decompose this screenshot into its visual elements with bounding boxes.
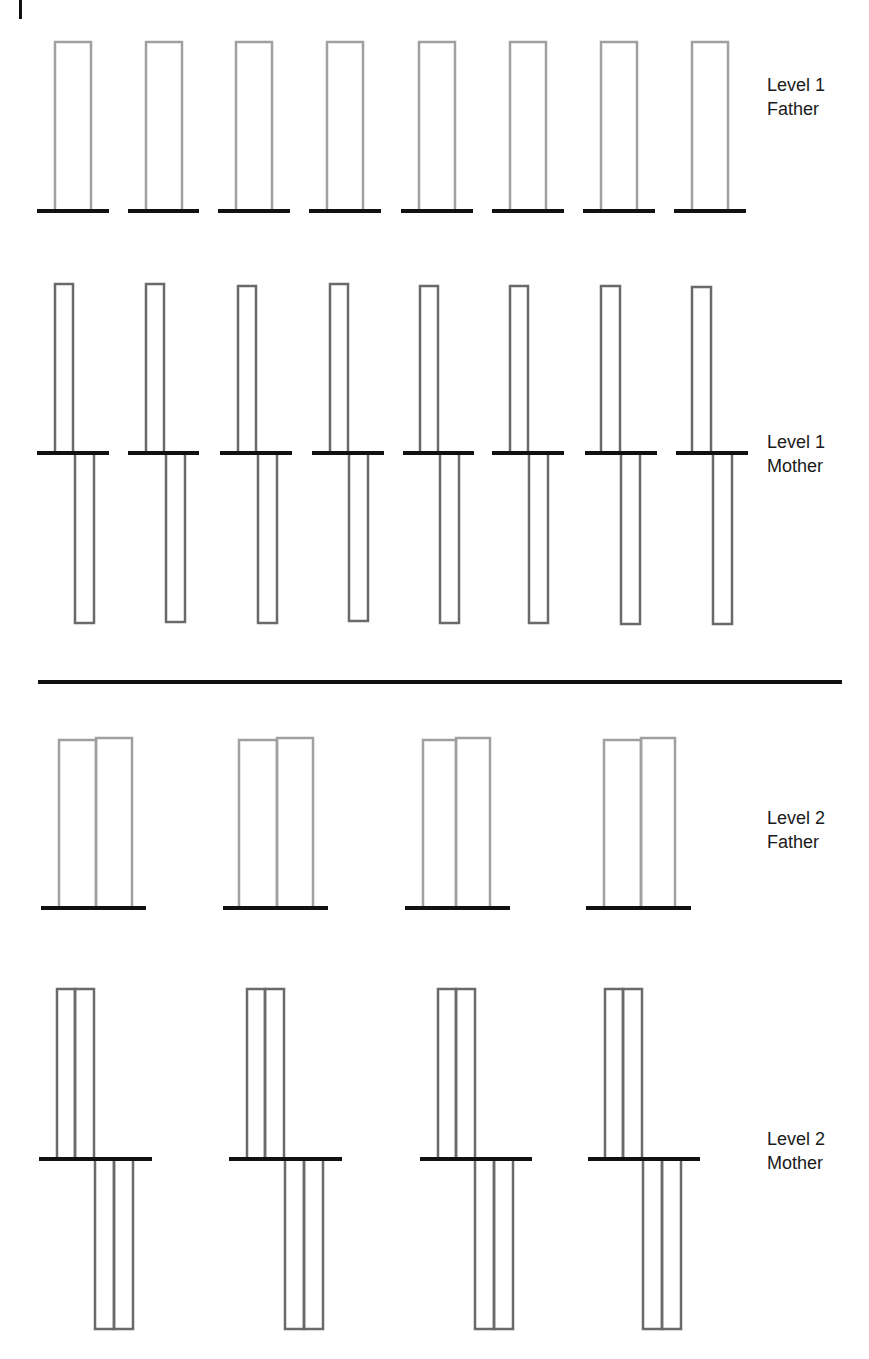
bar-outline <box>456 989 475 1159</box>
level1-father-unit <box>309 42 381 211</box>
bar-outline <box>75 453 94 623</box>
bar-outline <box>713 453 732 624</box>
bar-outline <box>423 740 456 908</box>
bar-outline <box>146 42 182 211</box>
level2-father-unit <box>223 738 328 908</box>
bar-outline <box>475 1159 494 1329</box>
bar-outline <box>456 738 490 908</box>
level1-mother-unit <box>37 284 109 623</box>
bar-outline <box>419 42 455 211</box>
label-level1-father-line1: Level 1 <box>767 73 825 97</box>
bar-outline <box>605 989 623 1159</box>
level1-father-unit <box>583 42 655 211</box>
bar-outline <box>277 738 313 908</box>
bar-outline <box>510 286 528 453</box>
bar-outline <box>238 286 256 453</box>
level1-mother-unit <box>128 284 199 622</box>
level2-mother-unit <box>229 989 342 1329</box>
bar-outline <box>57 989 75 1159</box>
bar-diagram <box>0 0 869 1359</box>
bar-outline <box>55 42 91 211</box>
bar-outline <box>146 284 164 453</box>
bar-outline <box>420 286 438 453</box>
level1-father-unit <box>674 42 746 211</box>
label-level2-father: Level 2 Father <box>767 806 825 854</box>
level1-father-unit <box>128 42 199 211</box>
level1-father-unit <box>37 42 109 211</box>
corner-tick-mark <box>19 0 22 19</box>
level1-father-unit <box>218 42 290 211</box>
bar-outline <box>529 453 548 623</box>
bar-outline <box>265 989 284 1159</box>
bar-outline <box>623 989 642 1159</box>
level1-father-unit <box>401 42 473 211</box>
bar-outline <box>643 1159 662 1329</box>
bar-outline <box>494 1159 513 1329</box>
label-level2-father-line2: Father <box>767 830 825 854</box>
bar-outline <box>75 989 94 1159</box>
bar-outline <box>258 453 277 623</box>
label-level1-father: Level 1 Father <box>767 73 825 121</box>
level1-mother-unit <box>492 286 564 623</box>
bar-outline <box>604 740 641 908</box>
bar-outline <box>236 42 272 211</box>
row-level1-father <box>37 42 746 211</box>
row-level2-father <box>41 738 691 908</box>
bar-outline <box>692 42 728 211</box>
bar-outline <box>349 453 368 621</box>
bar-outline <box>662 1159 681 1329</box>
label-level1-father-line2: Father <box>767 97 825 121</box>
bar-outline <box>692 287 711 453</box>
bar-outline <box>247 989 265 1159</box>
bar-outline <box>55 284 73 453</box>
bar-outline <box>330 284 348 453</box>
bar-outline <box>621 453 640 624</box>
level1-mother-unit <box>403 286 474 623</box>
level1-father-unit <box>492 42 564 211</box>
bar-outline <box>239 740 277 908</box>
bar-outline <box>601 286 620 453</box>
bar-outline <box>96 738 132 908</box>
bar-outline <box>641 738 675 908</box>
label-level2-mother-line1: Level 2 <box>767 1127 825 1151</box>
bar-outline <box>95 1159 114 1329</box>
diagram-canvas: Level 1 Father Level 1 Mother Level 2 Fa… <box>0 0 869 1359</box>
bar-outline <box>440 453 459 623</box>
label-level1-mother-line2: Mother <box>767 454 825 478</box>
label-level2-mother-line2: Mother <box>767 1151 825 1175</box>
level1-mother-unit <box>312 284 384 621</box>
bar-outline <box>166 453 185 622</box>
level1-mother-unit <box>220 286 292 623</box>
level2-mother-unit <box>588 989 700 1329</box>
row-level2-mother <box>39 989 700 1329</box>
level1-mother-unit <box>585 286 657 624</box>
level2-father-unit <box>586 738 691 908</box>
level2-father-unit <box>41 738 146 908</box>
bar-outline <box>438 989 456 1159</box>
level2-father-unit <box>405 738 510 908</box>
bar-outline <box>114 1159 133 1329</box>
bar-outline <box>285 1159 304 1329</box>
level1-mother-unit <box>676 287 748 624</box>
label-level1-mother: Level 1 Mother <box>767 430 825 478</box>
bar-outline <box>59 740 96 908</box>
bar-outline <box>327 42 363 211</box>
bar-outline <box>601 42 637 211</box>
bar-outline <box>304 1159 323 1329</box>
level2-mother-unit <box>420 989 532 1329</box>
label-level1-mother-line1: Level 1 <box>767 430 825 454</box>
level2-mother-unit <box>39 989 152 1329</box>
row-level1-mother <box>37 284 748 624</box>
label-level2-father-line1: Level 2 <box>767 806 825 830</box>
bar-outline <box>510 42 546 211</box>
label-level2-mother: Level 2 Mother <box>767 1127 825 1175</box>
